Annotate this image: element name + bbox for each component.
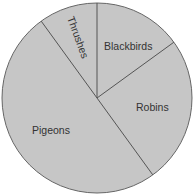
- label-blackbirds: Blackbirds: [104, 40, 152, 52]
- label-robins: Robins: [136, 101, 169, 113]
- pie-chart: Blackbirds Robins Pigeons Thrushes: [0, 0, 193, 195]
- label-pigeons: Pigeons: [32, 124, 70, 136]
